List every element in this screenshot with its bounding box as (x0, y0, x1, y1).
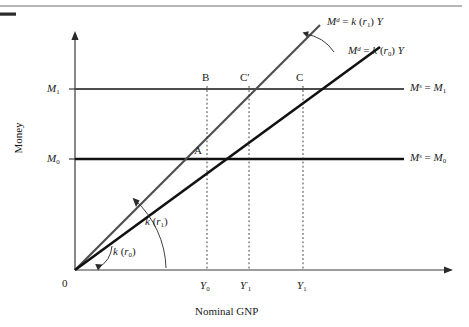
supply-label-M1: Ms = M1 (410, 82, 446, 95)
slope-label-k-r0: k (r0) (113, 246, 136, 259)
slope-arc-k-r1 (135, 200, 166, 268)
x-tick-label-Y0: Y0 (200, 280, 210, 293)
x-axis-arrowhead (444, 266, 453, 273)
x-tick-label-Y1: Y1 (297, 280, 307, 293)
point-label-C: C (296, 72, 303, 83)
point-label-A: A (194, 145, 202, 156)
point-label-C-prime: C′ (240, 72, 250, 83)
figure-container: Money 0 M1 M0 Y0 Y′1 Y1 Nominal GNP B C′… (0, 0, 469, 327)
y-tick-label-M1: M1 (47, 83, 60, 96)
x-tick-label-Y1-prime: Y′1 (240, 280, 251, 293)
curve-label-md-r1: Md = k (r1) Y (327, 16, 383, 29)
x-axis-title: Nominal GNP (195, 306, 258, 317)
y-axis-arrowhead (71, 31, 78, 40)
point-label-B: B (202, 72, 209, 83)
supply-label-M0: Ms = M0 (410, 152, 446, 165)
y-tick-label-M0: M0 (47, 153, 60, 166)
curve-label-md-r0: Md = k (r0) Y (348, 45, 404, 58)
y-axis-title: Money (12, 108, 24, 168)
slope-label-k-r1: k (r1) (145, 216, 168, 229)
origin-label: 0 (62, 278, 68, 289)
top-left-dash (0, 13, 16, 16)
